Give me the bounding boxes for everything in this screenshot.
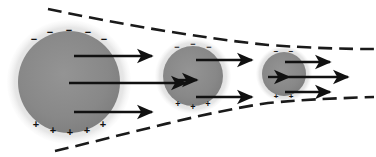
minus-sign: − — [47, 26, 53, 38]
plus-sign: + — [100, 118, 106, 130]
sphere-small-core — [262, 52, 306, 96]
plus-sign: + — [84, 124, 90, 136]
figure-container: − − − − − + + + + + − − − — [0, 0, 376, 157]
sphere-small: − − + + — [256, 46, 312, 102]
minus-sign: − — [101, 33, 107, 45]
minus-sign: − — [174, 42, 179, 52]
plus-sign: + — [190, 102, 195, 112]
minus-sign: − — [289, 47, 294, 56]
plus-sign: + — [67, 126, 73, 138]
plus-sign: + — [274, 92, 279, 101]
polarized-spheres-diagram: − − − − − + + + + + − − − — [0, 0, 376, 157]
plus-sign: + — [205, 99, 210, 109]
plus-sign: + — [175, 99, 180, 109]
plus-sign: + — [33, 118, 39, 130]
sphere-medium: − − − + + + — [155, 38, 231, 114]
minus-sign: − — [31, 33, 37, 45]
minus-sign: − — [190, 39, 195, 49]
plus-sign: + — [50, 124, 56, 136]
minus-sign: − — [66, 24, 72, 36]
minus-sign: − — [85, 26, 91, 38]
minus-sign: − — [274, 47, 279, 56]
minus-sign: − — [206, 42, 211, 52]
